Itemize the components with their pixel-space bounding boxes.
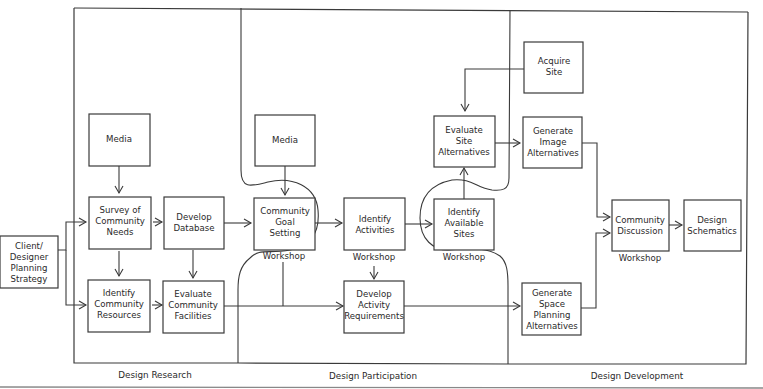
edge-client-split — [58, 222, 86, 250]
node-discussion[interactable]: CommunityDiscussion — [612, 200, 669, 251]
edge-acquire-evalsite — [465, 69, 524, 111]
node-goal[interactable]: CommunityGoalSetting — [254, 198, 315, 250]
workshop-label-discussion: Workshop — [619, 253, 661, 263]
svg-text:CommunityDiscussion: CommunityDiscussion — [615, 215, 665, 236]
node-space[interactable]: GenerateSpacePlanningAlternatives — [522, 283, 581, 335]
node-activities[interactable]: IdentifyActivities — [344, 198, 405, 250]
svg-text:EvaluateCommunityFacilities: EvaluateCommunityFacilities — [168, 289, 218, 321]
node-media-research[interactable]: Media — [89, 114, 150, 166]
phase-labels: Design Research Design Participation Des… — [118, 370, 684, 381]
node-facilities[interactable]: EvaluateCommunityFacilities — [163, 281, 224, 333]
node-database[interactable]: DevelopDatabase — [164, 197, 224, 249]
node-sites[interactable]: IdentifyAvailableSites — [434, 199, 494, 250]
edge-space-discussion — [581, 233, 610, 308]
phase-label-development: Design Development — [591, 371, 684, 381]
edge-client-resources — [66, 250, 86, 305]
workshop-label-sites: Workshop — [443, 252, 485, 262]
svg-text:Media: Media — [272, 135, 298, 145]
svg-text:IdentifyActivities: IdentifyActivities — [355, 214, 395, 235]
phase-label-research: Design Research — [118, 370, 192, 380]
workshop-label-activities: Workshop — [353, 252, 395, 262]
flowchart-diagram: Client/DesignerPlanningStrategy Media Su… — [0, 0, 763, 389]
node-client[interactable]: Client/DesignerPlanningStrategy — [0, 236, 58, 288]
svg-text:Media: Media — [106, 134, 132, 144]
node-schematics[interactable]: DesignSchematics — [684, 200, 741, 251]
nodes: Client/DesignerPlanningStrategy Media Su… — [0, 42, 741, 335]
edge-image-discussion — [582, 143, 610, 217]
svg-text:GenerateSpacePlanningAlternati: GenerateSpacePlanningAlternatives — [526, 288, 578, 331]
svg-text:Client/DesignerPlanningStrateg: Client/DesignerPlanningStrategy — [10, 241, 49, 284]
svg-text:DevelopDatabase: DevelopDatabase — [173, 212, 214, 233]
frame-top-border — [74, 8, 748, 12]
bottom-rule — [0, 387, 763, 388]
phase-label-participation: Design Participation — [329, 371, 417, 381]
node-survey[interactable]: Survey ofCommunityNeeds — [89, 197, 151, 249]
edges — [58, 69, 682, 308]
frame-bottom-participation — [238, 363, 508, 364]
node-acquire[interactable]: AcquireSite — [524, 42, 583, 93]
node-requirements[interactable]: DevelopActivityRequirements — [344, 281, 404, 333]
node-resources[interactable]: IdentifyCommunityResources — [88, 280, 150, 332]
node-media-participation[interactable]: Media — [255, 115, 315, 166]
node-image[interactable]: GenerateImageAlternatives — [523, 117, 582, 168]
node-evalsite[interactable]: EvaluateSiteAlternatives — [434, 116, 495, 167]
workshop-label-goal: Workshop — [263, 251, 305, 261]
